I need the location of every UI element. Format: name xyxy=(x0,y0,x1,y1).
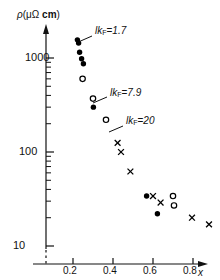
data-point-open-circle xyxy=(90,96,95,101)
data-point-open-circle xyxy=(170,193,175,198)
annotation-lkf-7p9: lkF=7.9 xyxy=(110,88,141,98)
y-axis-arrowhead xyxy=(43,24,49,34)
resistivity-scatter-figure: ρ(μΩ cm) 1010010000.20.40.60.8 lkF=1.7lk… xyxy=(0,0,220,280)
annotation-leader-lines xyxy=(76,36,123,132)
data-point-filled-circle xyxy=(79,56,84,61)
y-axis-tick-label: 1000 xyxy=(25,52,49,63)
x-axis-tick-label: 0.2 xyxy=(63,266,77,276)
x-axis-title: x xyxy=(198,268,203,278)
data-point-cross xyxy=(189,215,195,221)
data-point-cross xyxy=(206,221,212,227)
data-point-cross xyxy=(115,140,121,146)
data-point-cross xyxy=(118,149,124,155)
x-axis-ticks xyxy=(73,258,193,264)
plot-canvas xyxy=(0,0,220,280)
data-point-filled-circle xyxy=(155,211,160,216)
y-axis-tick-label: 10 xyxy=(13,240,25,251)
data-point-filled-circle xyxy=(91,104,96,109)
x-axis-tick-label: 0.8 xyxy=(183,266,197,276)
x-axis-tick-label: 0.6 xyxy=(143,266,157,276)
data-points xyxy=(75,37,212,227)
data-point-open-circle xyxy=(103,117,108,122)
x-axis-tick-label: 0.4 xyxy=(103,266,117,276)
data-point-cross xyxy=(128,169,134,175)
data-point-open-circle xyxy=(171,203,176,208)
data-point-filled-circle xyxy=(81,61,86,66)
y-axis-tick-label: 100 xyxy=(19,146,37,157)
annotation-lkf-1p7: lkF=1.7 xyxy=(95,26,126,36)
data-point-open-circle xyxy=(80,76,85,81)
y-axis-ticks xyxy=(46,58,54,246)
data-point-filled-circle xyxy=(144,193,149,198)
annotation-value: 7.9 xyxy=(127,87,141,98)
annotation-value: 20 xyxy=(143,115,154,126)
annotation-value: 1.7 xyxy=(112,25,126,36)
leader-line-lkf-20 xyxy=(109,126,123,132)
data-point-filled-circle xyxy=(76,40,81,45)
data-point-filled-circle xyxy=(77,50,82,55)
data-point-cross xyxy=(150,193,156,199)
annotation-lkf-20: lkF=20 xyxy=(126,116,154,126)
data-point-cross xyxy=(158,200,164,206)
